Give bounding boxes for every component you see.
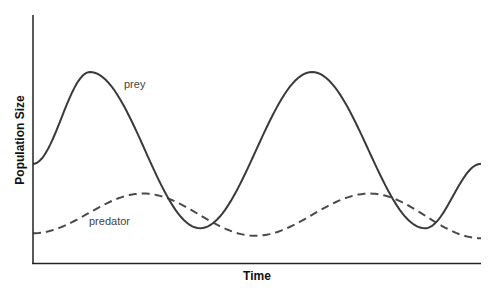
y-axis-title: Population Size — [13, 95, 27, 185]
predator-label: predator — [89, 215, 130, 227]
prey-label: prey — [124, 78, 146, 90]
x-axis-title: Time — [243, 269, 271, 283]
chart-background — [0, 0, 495, 291]
predator-prey-chart: prey predator Time Population Size — [0, 0, 495, 291]
